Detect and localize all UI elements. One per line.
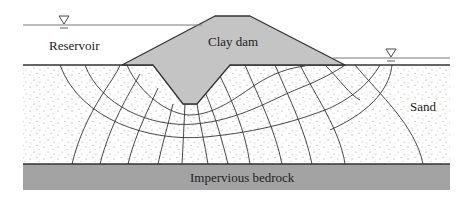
reservoir-label: Reservoir (49, 38, 100, 54)
bedrock-label: Impervious bedrock (190, 170, 294, 186)
flow-net-diagram: Reservoir Clay dam Sand Impervious bedro… (0, 0, 473, 202)
downstream-water-level-icon (386, 49, 396, 61)
upstream-water-level-icon (59, 16, 69, 28)
sand-label: Sand (410, 99, 436, 115)
dam-label: Clay dam (208, 34, 258, 50)
